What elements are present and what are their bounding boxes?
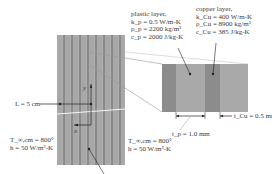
copper-c: c_Cu = 385 J/kg-K <box>196 29 252 37</box>
detail-panel <box>162 64 248 112</box>
y-axis-label: y <box>83 84 86 92</box>
plastic-c: c_p = 2000 J/kg-K <box>131 34 183 42</box>
right-boundary-condition: T_∞,cm = 800° h = 50 W/m²-K <box>128 138 172 153</box>
right-h: h = 50 W/m²-K <box>128 146 172 154</box>
length-label: L = 5 cm <box>15 100 40 108</box>
copper-layer-properties: copper layer, k_Cu = 400 W/m-K ρ_Cu = 89… <box>196 6 252 36</box>
x-axis-label: x <box>74 127 77 135</box>
plastic-layer-properties: plastic layer, k_p = 0.5 W/m-K ρ_p = 220… <box>131 11 183 41</box>
left-boundary-condition: T_∞,cm = 800° h = 50 W/m²-K <box>10 137 54 152</box>
left-h: h = 50 W/m²-K <box>10 145 54 153</box>
tcu-label: t_Cu = 0.5 mm <box>234 112 272 120</box>
tp-label: t_p = 1.0 mm <box>172 130 210 138</box>
